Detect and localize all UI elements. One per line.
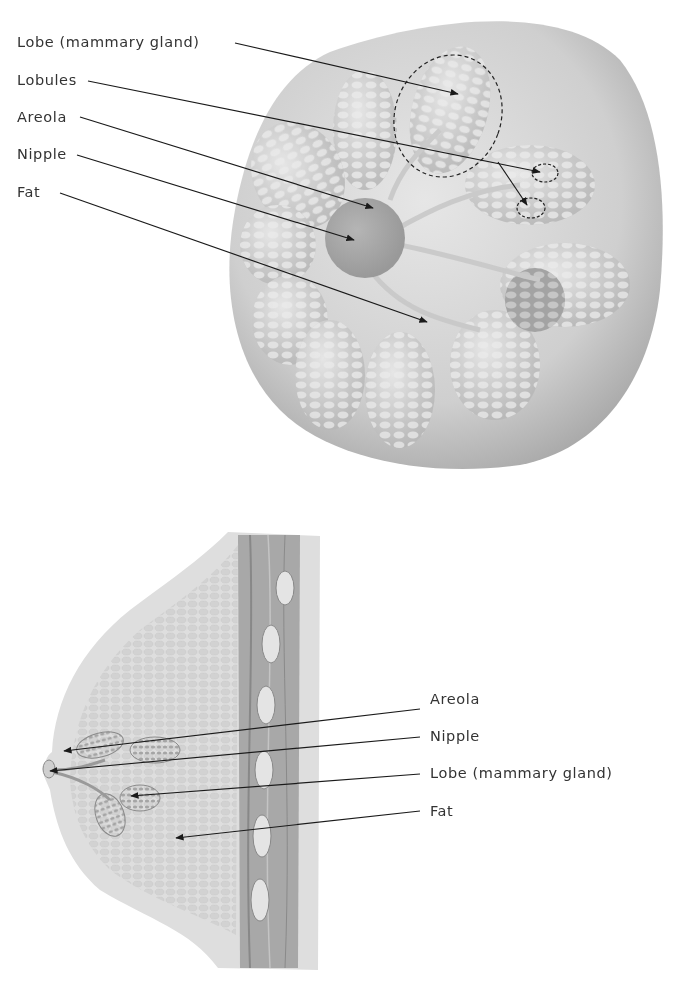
label-nipple-top: Nipple	[17, 147, 67, 162]
nipple	[43, 760, 55, 778]
anatomy-illustration	[0, 0, 684, 985]
label-lobe-top: Lobe (mammary gland)	[17, 35, 200, 50]
label-areola-top: Areola	[17, 110, 67, 125]
label-areola-bottom: Areola	[430, 692, 480, 707]
label-lobe-bottom: Lobe (mammary gland)	[430, 766, 613, 781]
side-view-diagram	[43, 532, 420, 970]
label-nipple-bottom: Nipple	[430, 729, 480, 744]
areola-region	[325, 198, 405, 278]
label-fat-top: Fat	[17, 185, 40, 200]
front-view-diagram	[60, 21, 663, 469]
label-fat-bottom: Fat	[430, 804, 453, 819]
label-lobules-top: Lobules	[17, 73, 77, 88]
